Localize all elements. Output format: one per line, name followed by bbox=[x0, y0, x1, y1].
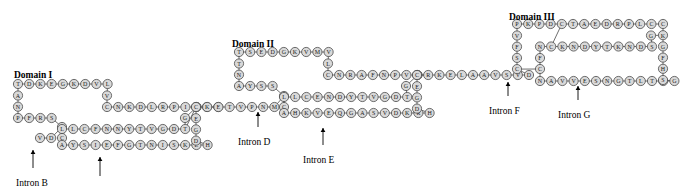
residue: N bbox=[13, 102, 22, 111]
residue-letter: V bbox=[239, 104, 244, 110]
residue-letter: M bbox=[272, 104, 278, 110]
residue: K bbox=[614, 42, 623, 51]
residue-letter: A bbox=[60, 142, 65, 148]
residue: R bbox=[158, 102, 167, 111]
residue: E bbox=[214, 102, 223, 111]
residue: N bbox=[603, 76, 612, 85]
residue: V bbox=[380, 108, 389, 117]
residue: Y bbox=[69, 140, 78, 149]
residue: V bbox=[324, 47, 333, 56]
residue-letter: V bbox=[404, 72, 409, 78]
residue: P bbox=[247, 102, 256, 111]
residue-letter: C bbox=[415, 72, 419, 78]
residue-letter: V bbox=[105, 93, 110, 99]
residue-letter: N bbox=[605, 78, 610, 84]
residue-letter: C bbox=[538, 66, 542, 72]
residue: S bbox=[47, 113, 56, 122]
intron-arrow-head bbox=[256, 112, 261, 116]
residue-letter: K bbox=[183, 142, 188, 148]
residue: T bbox=[225, 102, 234, 111]
residue: K bbox=[302, 108, 311, 117]
residue: D bbox=[391, 92, 400, 101]
residue-letter: I bbox=[95, 142, 97, 148]
residue: L bbox=[636, 76, 645, 85]
residue: L bbox=[323, 59, 332, 68]
residue: N bbox=[535, 42, 544, 51]
residue: C bbox=[80, 124, 89, 133]
residue-letter: K bbox=[304, 110, 309, 116]
residue-letter: L bbox=[638, 21, 642, 27]
residue: A bbox=[279, 108, 288, 117]
residue-letter: D bbox=[270, 49, 275, 55]
residue: K bbox=[203, 102, 212, 111]
figure-canvas: TDKEGKDVLANPFRSCVDCVCNKDLRPICGLLCFNNYTVG… bbox=[0, 0, 682, 186]
residue-letter: N bbox=[382, 72, 387, 78]
domain-label: Domain I bbox=[14, 70, 52, 80]
residue-letter: E bbox=[105, 142, 109, 148]
residue: A bbox=[480, 70, 489, 79]
residue-letter: V bbox=[304, 49, 309, 55]
residue-letter: D bbox=[604, 21, 609, 27]
residue: G bbox=[125, 140, 134, 149]
residue: C bbox=[102, 102, 111, 111]
residue-letter: K bbox=[560, 44, 565, 50]
residue: E bbox=[446, 70, 455, 79]
residue: A bbox=[358, 108, 367, 117]
residue-letter: C bbox=[515, 66, 519, 72]
residue: H bbox=[203, 140, 212, 149]
residue: P bbox=[624, 19, 633, 28]
residue-letter: A bbox=[549, 78, 554, 84]
residue-letter: L bbox=[460, 72, 464, 78]
residue-letter: C bbox=[326, 72, 330, 78]
residue-letter: E bbox=[316, 94, 320, 100]
residue: G bbox=[347, 108, 356, 117]
residue-letter: L bbox=[106, 81, 110, 87]
residue-letter: L bbox=[71, 126, 75, 132]
residue: S bbox=[512, 53, 521, 62]
residue: R bbox=[36, 113, 45, 122]
residue: G bbox=[670, 76, 679, 85]
residue: N bbox=[335, 70, 344, 79]
residue-letter: V bbox=[383, 110, 388, 116]
residue-letter: E bbox=[260, 49, 264, 55]
residue: K bbox=[36, 79, 45, 88]
residue-letter: L bbox=[282, 94, 286, 100]
residue-letter: V bbox=[149, 126, 154, 132]
residue-letter: D bbox=[394, 110, 399, 116]
residue: G bbox=[58, 79, 67, 88]
residue: L bbox=[636, 19, 645, 28]
residue: C bbox=[535, 64, 544, 73]
residue-letter: V bbox=[371, 94, 376, 100]
residue: S bbox=[369, 108, 378, 117]
residue-letter: C bbox=[661, 21, 665, 27]
residue-letter: N bbox=[237, 72, 242, 78]
residue: C bbox=[647, 19, 656, 28]
intron-arrow-head bbox=[98, 157, 103, 161]
residue: D bbox=[136, 102, 145, 111]
residue: A bbox=[547, 76, 556, 85]
residue: C bbox=[557, 19, 566, 28]
residue: L bbox=[57, 124, 66, 133]
residue: G bbox=[412, 93, 421, 102]
residue: A bbox=[357, 70, 366, 79]
residue-letter: N bbox=[327, 94, 332, 100]
residue-letter: R bbox=[616, 21, 620, 27]
residue: N bbox=[114, 102, 123, 111]
residue-letter: N bbox=[105, 126, 110, 132]
residue-letter: S bbox=[594, 78, 597, 84]
residue: D bbox=[169, 124, 178, 133]
residue-letter: T bbox=[405, 94, 409, 100]
residue: P bbox=[13, 113, 22, 122]
residue-letter: S bbox=[271, 83, 274, 89]
residue: S bbox=[268, 81, 277, 90]
residue-letter: D bbox=[172, 126, 177, 132]
residue-letter: S bbox=[172, 142, 175, 148]
residue: K bbox=[403, 108, 412, 117]
residue-letter: E bbox=[583, 78, 587, 84]
residue: Y bbox=[246, 81, 255, 90]
residue-letter: Y bbox=[127, 126, 132, 132]
intron-arrow-head bbox=[506, 82, 511, 86]
residue-letter: G bbox=[349, 110, 354, 116]
residue: L bbox=[103, 79, 112, 88]
residue-letter: N bbox=[116, 126, 121, 132]
